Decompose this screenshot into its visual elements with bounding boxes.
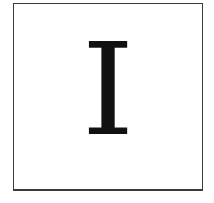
letter-card: I bbox=[13, 3, 203, 191]
letter-glyph: I bbox=[9, 26, 206, 154]
